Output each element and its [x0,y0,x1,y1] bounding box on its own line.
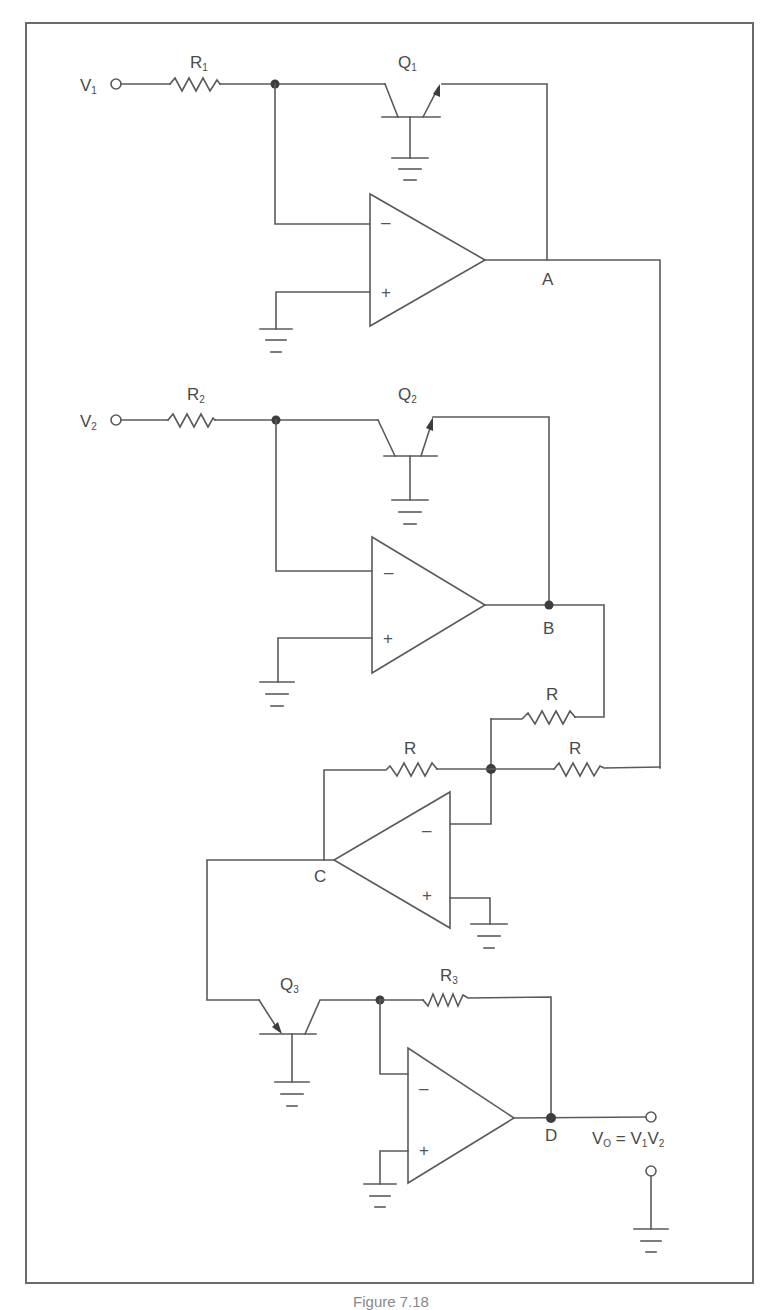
log-amp-stage-2 [111,414,604,717]
opamp-1-plus: + [381,284,391,301]
r2-resistor [168,414,215,427]
r1-label: R1 [190,54,208,73]
r1-label-sub: 1 [202,62,208,73]
figure-frame [26,23,753,1283]
q3-label-sub: 3 [293,984,299,995]
rhs-v2-main: V [647,1129,658,1148]
opamp-4-minus: – [419,1080,428,1097]
opamp-4 [408,1048,514,1183]
node-d-label: D [545,1127,557,1144]
vo-main: V [592,1129,603,1148]
r-right-resistor [554,763,660,776]
r-left-label: R [404,740,416,757]
q1-label-main: Q [398,53,411,72]
vo-ground-terminal [646,1166,656,1176]
node-c-label: C [314,868,326,885]
q2-label-sub: 2 [411,394,417,405]
opamp-2-plus: + [383,630,393,647]
r1-label-main: R [190,53,202,72]
equals-sign: = [611,1129,630,1148]
opamp-2-minus: – [384,564,393,581]
r-top-label: R [546,686,558,703]
v1-label-sub: 1 [91,85,97,96]
r2-label-sub: 2 [199,394,205,405]
vo-output-terminal [646,1112,656,1122]
opamp-1-minus: – [381,214,390,231]
summing-stage [207,711,660,1000]
node-b-label: B [543,620,554,637]
figure-caption: Figure 7.18 [0,1293,782,1310]
q2-label: Q2 [398,386,417,405]
rhs-v1-main: V [631,1129,642,1148]
q2-label-main: Q [398,385,411,404]
antilog-stage [259,994,668,1252]
v1-label-main: V [80,76,91,95]
q1-label: Q1 [398,54,417,73]
output-equation: VO = V1V2 [592,1130,664,1149]
r3-label-main: R [440,966,452,985]
r3-label: R3 [440,967,458,986]
v1-label: V1 [80,77,97,96]
r2-label: R2 [187,386,205,405]
opamp-3 [334,792,450,928]
node-d-dot [546,1113,556,1123]
r2-label-main: R [187,385,199,404]
r-left-resistor [324,763,437,860]
r3-label-sub: 3 [452,975,458,986]
r-top-resistor [491,711,575,724]
opamp-3-plus: + [422,887,432,904]
v2-label-main: V [80,412,91,431]
q1-label-sub: 1 [411,62,417,73]
q3-transistor [259,1000,380,1106]
node-b-dot [545,601,554,610]
q3-label: Q3 [280,976,299,995]
rhs-v2-sub: 2 [659,1138,665,1149]
opamp-4-plus: + [419,1142,429,1159]
v1-input-terminal [111,79,121,89]
opamp-3-minus: – [422,822,431,839]
v2-label: V2 [80,413,97,432]
v2-input-terminal [111,415,121,425]
v2-label-sub: 2 [91,421,97,432]
q2-transistor [378,417,549,605]
opamp-2 [372,537,485,673]
r1-resistor [170,78,220,91]
q1-transistor [382,84,547,260]
vo-sub: O [603,1138,611,1149]
r-right-label: R [569,740,581,757]
node-a-label: A [542,271,553,288]
q3-label-main: Q [280,975,293,994]
